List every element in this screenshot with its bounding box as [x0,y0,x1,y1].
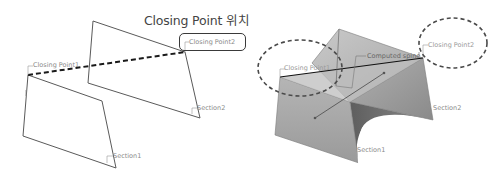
right-label-section1: Section1 [357,146,385,154]
label-computed-spine: Computed spine [367,52,420,60]
right-label-closing-point1: Closing Point1 [284,64,330,72]
right-label-closing-point2: Closing Point2 [428,41,474,49]
diagram-canvas: Closing Point 위치 Closing Point1 Closing … [0,0,496,179]
right-label-section2: Section2 [433,104,461,112]
right-figure-surface [0,0,496,179]
